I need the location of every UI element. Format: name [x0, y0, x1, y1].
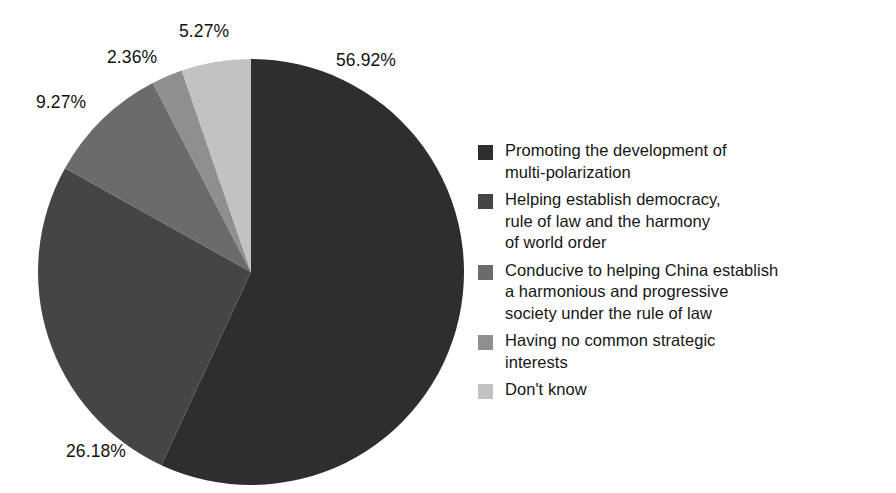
pie-chart-figure: 56.92% 26.18% 9.27% 2.36% 5.27% Promotin… — [0, 0, 896, 493]
legend-label-2: Conducive to helping China establish a h… — [505, 260, 778, 325]
legend-swatch-icon-4 — [478, 384, 493, 399]
pie-data-label-4: 5.27% — [179, 23, 229, 41]
pie-svg — [0, 0, 470, 493]
legend-label-3: Having no common strategic interests — [505, 330, 715, 373]
legend-label-4: Don't know — [505, 379, 587, 401]
legend-item-1[interactable]: Helping establish democracy, rule of law… — [478, 189, 878, 254]
legend-item-2[interactable]: Conducive to helping China establish a h… — [478, 260, 878, 325]
pie-data-label-1: 26.18% — [66, 443, 126, 461]
pie-slice-group — [38, 59, 464, 485]
pie-data-label-3: 2.36% — [107, 49, 157, 67]
legend-label-1: Helping establish democracy, rule of law… — [505, 189, 721, 254]
pie-data-label-2: 9.27% — [36, 94, 86, 112]
legend-item-4[interactable]: Don't know — [478, 379, 878, 401]
pie-plot-area: 56.92% 26.18% 9.27% 2.36% 5.27% — [0, 0, 470, 493]
legend-item-0[interactable]: Promoting the development of multi-polar… — [478, 140, 878, 183]
pie-data-label-0: 56.92% — [336, 52, 396, 70]
legend-item-3[interactable]: Having no common strategic interests — [478, 330, 878, 373]
legend-swatch-icon-2 — [478, 265, 493, 280]
legend-swatch-icon-1 — [478, 194, 493, 209]
legend-label-0: Promoting the development of multi-polar… — [505, 140, 727, 183]
legend-swatch-icon-3 — [478, 335, 493, 350]
legend-swatch-icon-0 — [478, 145, 493, 160]
chart-legend: Promoting the development of multi-polar… — [478, 140, 878, 407]
